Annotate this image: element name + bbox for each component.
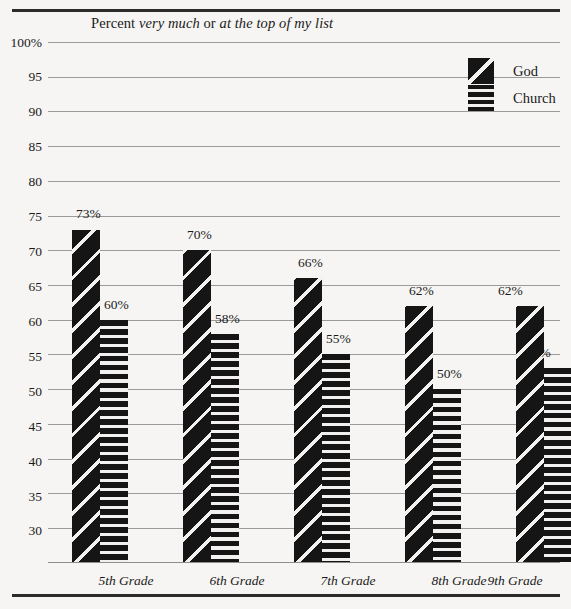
- top-rule: [12, 9, 560, 12]
- x-axis-baseline: [48, 562, 560, 563]
- value-label-god-9th-grade: 62%: [498, 284, 523, 298]
- legend-swatch-god-icon: [468, 58, 494, 84]
- y-tick-label: 60: [0, 315, 42, 329]
- y-tick-label: 95: [0, 70, 42, 84]
- x-category-label-5th-grade: 5th Grade: [70, 573, 182, 589]
- bottom-rule: [12, 594, 560, 597]
- legend-item-god[interactable]: God: [468, 58, 538, 84]
- x-category-label-9th-grade: 9th Grade: [459, 573, 571, 589]
- y-tick-label: 35: [0, 490, 42, 504]
- value-label-church-8th-grade: 50%: [437, 367, 462, 381]
- chart-figure: Percent very much or at the top of my li…: [0, 0, 571, 609]
- bar-church-8th-grade[interactable]: [433, 389, 461, 562]
- y-tick-label: 90: [0, 105, 42, 119]
- y-tick-label: 75: [0, 210, 42, 224]
- bar-god-6th-grade[interactable]: [183, 250, 211, 562]
- legend-label-church: Church: [513, 91, 556, 106]
- y-tick-label: 85: [0, 140, 42, 154]
- gridline: [48, 250, 560, 251]
- y-tick-label: 30: [0, 524, 42, 538]
- bar-church-6th-grade[interactable]: [211, 334, 239, 562]
- chart-title-prefix: Percent: [91, 15, 139, 31]
- legend-swatch-church-icon: [468, 85, 494, 111]
- legend-label-god: God: [513, 64, 538, 79]
- value-label-god-7th-grade: 66%: [298, 256, 323, 270]
- y-tick-label: 50: [0, 385, 42, 399]
- value-label-church-9th-grade: 53%: [526, 346, 551, 360]
- gridline: [48, 42, 560, 43]
- value-label-church-5th-grade: 60%: [104, 298, 129, 312]
- value-label-church-6th-grade: 58%: [215, 312, 240, 326]
- legend-item-church[interactable]: Church: [468, 85, 556, 111]
- y-tick-label: 45: [0, 420, 42, 434]
- gridline: [48, 216, 560, 217]
- y-tick-label: 65: [0, 280, 42, 294]
- y-tick-label: 55: [0, 350, 42, 364]
- value-label-god-8th-grade: 62%: [409, 284, 434, 298]
- gridline: [48, 181, 560, 182]
- x-category-label-7th-grade: 7th Grade: [292, 573, 404, 589]
- gridline: [48, 146, 560, 147]
- y-tick-label: 40: [0, 455, 42, 469]
- value-label-god-6th-grade: 70%: [187, 228, 212, 242]
- bar-god-5th-grade[interactable]: [72, 230, 100, 563]
- chart-title-italic-two: at the top of my list: [220, 15, 334, 31]
- x-category-label-6th-grade: 6th Grade: [181, 573, 293, 589]
- value-label-god-5th-grade: 73%: [76, 207, 101, 221]
- chart-title-italic-one: very much: [139, 15, 200, 31]
- y-tick-label: 100%: [0, 36, 42, 50]
- chart-title: Percent very much or at the top of my li…: [91, 15, 333, 32]
- y-tick-label: 80: [0, 175, 42, 189]
- value-label-church-7th-grade: 55%: [326, 332, 351, 346]
- chart-title-middle: or: [200, 15, 220, 31]
- bar-god-8th-grade[interactable]: [405, 306, 433, 562]
- bar-church-5th-grade[interactable]: [100, 320, 128, 562]
- gridline: [48, 111, 560, 112]
- bar-church-9th-grade[interactable]: [544, 368, 571, 562]
- bar-church-7th-grade[interactable]: [322, 354, 350, 562]
- y-tick-label: 70: [0, 245, 42, 259]
- bar-god-7th-grade[interactable]: [294, 278, 322, 562]
